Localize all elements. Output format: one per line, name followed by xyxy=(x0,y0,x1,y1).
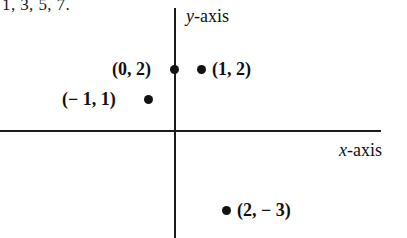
x-axis-line xyxy=(0,130,381,132)
y-axis-label: y-axis xyxy=(186,6,229,27)
data-point-dot xyxy=(222,206,231,215)
y-axis-line xyxy=(174,8,176,238)
caption-fragment: 1, 3, 5, 7. xyxy=(2,0,70,15)
y-axis-label-suffix: -axis xyxy=(194,6,229,26)
data-point-label: (1, 2) xyxy=(212,59,251,80)
data-point-label: (− 1, 1) xyxy=(62,89,116,110)
y-axis-label-variable: y xyxy=(186,6,194,26)
x-axis-label-suffix: -axis xyxy=(347,140,382,160)
data-point-dot xyxy=(170,65,179,74)
x-axis-label-variable: x xyxy=(339,140,347,160)
data-point-dot xyxy=(144,95,153,104)
data-point-dot xyxy=(197,65,206,74)
data-point-label: (0, 2) xyxy=(112,59,151,80)
coordinate-plane-figure: 1, 3, 5, 7. y-axis x-axis (0, 2) (1, 2) … xyxy=(0,0,407,238)
data-point-label: (2, − 3) xyxy=(237,200,291,221)
x-axis-label: x-axis xyxy=(339,140,382,161)
